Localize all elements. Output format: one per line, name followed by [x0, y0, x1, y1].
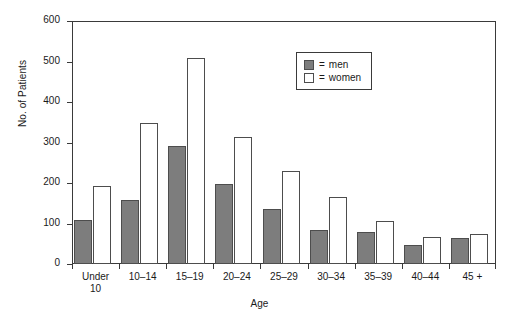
bar-men-7 [404, 245, 422, 264]
bar-men-2 [168, 146, 186, 264]
bar-men-6 [357, 232, 375, 264]
x-axis-title: Age [0, 298, 519, 309]
x-axis-tick-mark [355, 264, 356, 269]
bar-women-0 [93, 186, 111, 264]
y-axis-tick-label: 500 [43, 55, 60, 66]
x-axis-tick-label: 20–24 [213, 271, 260, 283]
bar-women-4 [282, 171, 300, 264]
bar-women-3 [234, 137, 252, 264]
y-axis-tick-label: 600 [43, 14, 60, 25]
legend-equals-men: = [319, 59, 325, 70]
bar-men-1 [121, 200, 139, 264]
legend-equals-women: = [319, 72, 325, 83]
x-axis-tick-mark [449, 264, 450, 269]
chart-legend: = men = women [296, 52, 372, 90]
bar-women-8 [470, 234, 488, 264]
y-axis-tick-mark [67, 224, 72, 225]
y-axis-tick-label: 400 [43, 95, 60, 106]
x-axis-tick-label: 35–39 [355, 271, 402, 283]
x-axis-tick-label: 25–29 [260, 271, 307, 283]
bar-men-4 [263, 209, 281, 264]
x-axis-tick-label: 30–34 [308, 271, 355, 283]
legend-item-women: = women [304, 71, 361, 84]
x-axis-tick-mark [166, 264, 167, 269]
y-axis-tick-label: 200 [43, 176, 60, 187]
y-axis-tick-mark [67, 143, 72, 144]
legend-swatch-men-icon [304, 60, 314, 70]
bar-men-5 [310, 230, 328, 264]
x-axis-tick-mark [213, 264, 214, 269]
y-axis-title: No. of Patients [17, 14, 28, 174]
x-axis-tick-mark [495, 264, 496, 269]
y-axis-tick-mark [67, 62, 72, 63]
x-axis-tick-mark [402, 264, 403, 269]
bar-men-0 [74, 220, 92, 264]
y-axis-tick-label: 100 [43, 217, 60, 228]
bar-women-2 [187, 58, 205, 264]
bar-women-7 [423, 237, 441, 264]
legend-label-women: women [329, 72, 361, 83]
x-axis-tick-label: Under 10 [72, 271, 119, 294]
y-axis-tick-mark [67, 183, 72, 184]
bar-men-8 [451, 238, 469, 264]
y-axis-tick-mark [67, 21, 72, 22]
legend-label-men: men [329, 59, 348, 70]
y-axis-tick-label: 300 [43, 136, 60, 147]
x-axis-tick-label: 10–14 [119, 271, 166, 283]
x-axis-tick-mark [308, 264, 309, 269]
y-axis-tick-label: 0 [54, 257, 60, 268]
bar-women-1 [140, 123, 158, 264]
bar-women-6 [376, 221, 394, 264]
bar-women-5 [329, 197, 347, 264]
bar-men-3 [215, 184, 233, 264]
x-axis-tick-mark [119, 264, 120, 269]
x-axis-tick-mark [72, 264, 73, 269]
bar-chart-figure: No. of Patients 0100200300400500600 Unde… [0, 0, 519, 321]
legend-swatch-women-icon [304, 73, 314, 83]
x-axis-tick-label: 45 + [449, 271, 496, 283]
x-axis-tick-label: 40–44 [402, 271, 449, 283]
x-axis-tick-label: 15–19 [166, 271, 213, 283]
legend-item-men: = men [304, 58, 361, 71]
x-axis-tick-mark [260, 264, 261, 269]
y-axis-tick-mark [67, 102, 72, 103]
